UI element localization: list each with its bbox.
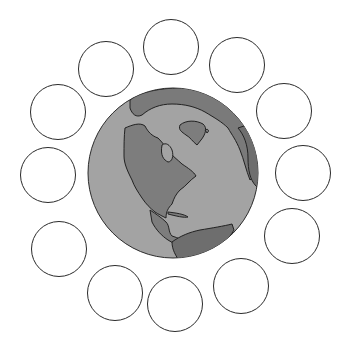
answer-circle-7[interactable]: [147, 276, 203, 332]
answer-circle-9[interactable]: [31, 221, 87, 277]
answer-circle-2[interactable]: [209, 37, 265, 93]
answer-circle-12[interactable]: [78, 41, 134, 97]
answer-circle-11[interactable]: [30, 84, 86, 140]
answer-circle-8[interactable]: [87, 265, 143, 321]
answer-circle-3[interactable]: [256, 83, 312, 139]
answer-circle-6[interactable]: [213, 258, 269, 314]
answer-circle-1[interactable]: [143, 19, 199, 75]
answer-circle-4[interactable]: [275, 145, 331, 201]
answer-circle-10[interactable]: [20, 147, 76, 203]
answer-circle-5[interactable]: [264, 208, 320, 264]
worksheet-canvas: [0, 0, 348, 349]
